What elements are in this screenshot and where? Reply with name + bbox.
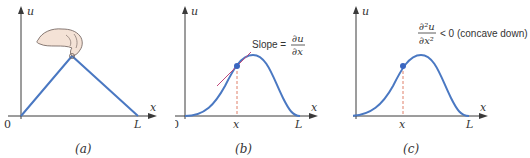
point-label: x — [399, 118, 406, 131]
y-axis-arrow-icon — [353, 6, 359, 14]
wave-curve — [353, 55, 469, 116]
slope-numerator: ∂u — [292, 33, 304, 44]
tangent-line — [217, 52, 251, 86]
string-triangle — [21, 56, 138, 116]
hand-icon — [37, 29, 82, 59]
end-label: L — [133, 118, 141, 131]
caption-a: (a) — [75, 142, 92, 156]
concavity-denominator: ∂x² — [419, 35, 434, 46]
slope-label: Slope = — [252, 39, 289, 50]
concavity-numerator: ∂²u — [419, 21, 435, 32]
end-label: L — [465, 118, 473, 131]
panel-b: u x 0 L x Slope = ∂u ∂x (b) — [175, 0, 353, 158]
origin-label: 0 — [4, 118, 11, 131]
y-axis-arrow-icon — [18, 6, 24, 14]
point-marker — [234, 63, 240, 69]
slope-denominator: ∂x — [292, 46, 303, 57]
point-label: x — [233, 118, 240, 131]
x-axis-label: x — [150, 101, 157, 114]
end-label: L — [294, 118, 302, 131]
y-axis-label: u — [362, 5, 369, 18]
point-marker — [400, 63, 406, 69]
origin-label: 0 — [175, 118, 179, 131]
wave-curve — [185, 55, 300, 116]
x-axis-label: x — [311, 101, 318, 114]
y-axis-label: u — [191, 5, 198, 18]
panel-a: u x 0 L (a) — [0, 0, 175, 158]
y-axis-arrow-icon — [182, 6, 188, 14]
panel-c: u x 0 L x ∂²u ∂x² < 0 (concave down) (c) — [353, 0, 530, 158]
concavity-label: < 0 (concave down) — [440, 28, 528, 39]
x-axis-label: x — [480, 101, 487, 114]
y-axis-label: u — [27, 5, 34, 18]
caption-b: (b) — [235, 142, 252, 156]
caption-c: (c) — [403, 142, 419, 156]
